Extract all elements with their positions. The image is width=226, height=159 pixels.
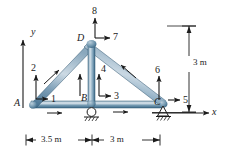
dimension-label-height: 3 m [193, 58, 207, 67]
force-label-1: 1 [51, 94, 56, 104]
axis-label-x: x [212, 107, 216, 117]
joint-a [29, 101, 37, 108]
member-db [88, 43, 95, 105]
force-label-2: 2 [31, 63, 36, 73]
truss-members [29, 40, 168, 109]
node-label-a: A [14, 98, 20, 108]
node-label-d: D [77, 33, 84, 43]
force-label-3: 3 [114, 91, 119, 101]
force-label-8: 8 [92, 6, 97, 16]
node-label-b: B [81, 93, 87, 103]
joint-d [87, 40, 97, 48]
force-label-6: 6 [155, 65, 160, 75]
force-label-4: 4 [101, 64, 106, 74]
joint-b [88, 101, 96, 108]
force-label-5: 5 [183, 95, 188, 105]
dimension-label-span-right: 3 m [110, 135, 124, 144]
axis-label-y: y [31, 27, 35, 37]
force-label-7: 7 [113, 32, 118, 42]
truss-figure: y x A B C D 1 2 3 4 5 6 7 8 3.5 m 3 m 3 … [0, 0, 226, 159]
node-label-c: C [154, 97, 161, 107]
support-b-roller [84, 108, 99, 121]
dimension-label-span-left: 3.5 m [41, 135, 62, 144]
